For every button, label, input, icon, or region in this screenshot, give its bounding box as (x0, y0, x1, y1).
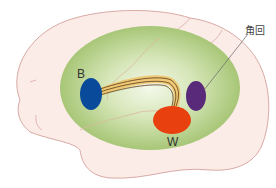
label-w: W (167, 135, 178, 149)
brain-diagram (0, 0, 276, 188)
region-b (80, 78, 102, 110)
label-angular-gyrus: 角回 (245, 22, 265, 37)
label-b: B (77, 67, 85, 81)
region-angular-gyrus (186, 81, 206, 111)
region-w (153, 106, 191, 134)
